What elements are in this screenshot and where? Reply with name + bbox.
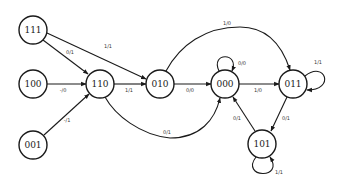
- state-node-001: 001: [19, 131, 47, 159]
- edge-110-to-010: 1/1: [114, 84, 146, 93]
- svg-text:1/1: 1/1: [314, 59, 322, 65]
- svg-text:1/0: 1/0: [223, 20, 231, 26]
- svg-text:0/1: 0/1: [66, 49, 74, 55]
- svg-text:0/1: 0/1: [163, 129, 171, 135]
- edge-110-to-000: 0/1: [105, 97, 220, 138]
- edge-000-self-loop: 0/0: [217, 57, 246, 71]
- svg-text:0/0: 0/0: [238, 60, 246, 66]
- svg-text:0/1: 0/1: [282, 115, 290, 121]
- svg-text:-/0: -/0: [60, 87, 67, 93]
- svg-text:-/1: -/1: [64, 117, 71, 123]
- state-node-011: 011: [279, 70, 307, 98]
- svg-text:011: 011: [284, 79, 301, 89]
- edge-011-to-101: 0/1: [271, 97, 290, 131]
- svg-text:1/1: 1/1: [275, 169, 283, 175]
- svg-text:1/0: 1/0: [254, 87, 262, 93]
- edge-010-to-000: 0/0: [174, 84, 211, 93]
- svg-text:0/0: 0/0: [186, 87, 194, 93]
- svg-text:100: 100: [24, 79, 41, 89]
- state-node-110: 110: [86, 70, 114, 98]
- svg-text:001: 001: [24, 140, 41, 150]
- edge-101-self-loop: 1/1: [253, 157, 284, 175]
- edge-000-to-011: 1/0: [239, 84, 279, 93]
- svg-text:111: 111: [24, 25, 41, 35]
- svg-text:1/1: 1/1: [125, 87, 133, 93]
- state-node-111: 111: [19, 16, 47, 44]
- svg-text:101: 101: [253, 139, 270, 149]
- state-node-010: 010: [146, 70, 174, 98]
- state-node-100: 100: [19, 70, 47, 98]
- edge-011-self-loop: 1/1: [305, 59, 325, 90]
- state-node-000: 000: [211, 70, 239, 98]
- state-diagram: 0/1 1/1 -/0 -/1 1/1 0/1 0/0 1/0 0/0 1/0 …: [0, 0, 343, 192]
- edge-111-to-110: 0/1: [43, 40, 88, 74]
- edge-010-to-011: 1/0: [166, 20, 290, 71]
- state-node-101: 101: [248, 130, 276, 158]
- svg-text:1/1: 1/1: [104, 43, 112, 49]
- edge-100-to-110: -/0: [47, 84, 86, 93]
- svg-text:0/1: 0/1: [233, 115, 241, 121]
- svg-text:110: 110: [91, 79, 108, 89]
- svg-text:000: 000: [216, 79, 233, 89]
- edge-101-to-000: 0/1: [233, 97, 255, 131]
- edge-001-to-110: -/1: [44, 94, 89, 135]
- svg-text:010: 010: [151, 79, 168, 89]
